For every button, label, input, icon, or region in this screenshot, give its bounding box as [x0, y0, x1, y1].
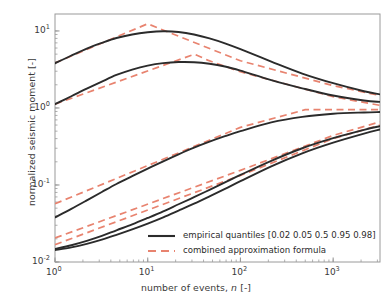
legend-swatch-dashed — [148, 246, 175, 256]
legend-item-approximation: combined approximation formula — [148, 243, 376, 258]
x-axis-label-text: number of events, — [141, 282, 228, 293]
plot-area — [0, 0, 392, 304]
legend-label-approximation: combined approximation formula — [183, 246, 326, 255]
curve-empirical-2 — [55, 112, 380, 217]
legend-item-empirical: empirical quantiles [0.02 0.05 0.5 0.95 … — [148, 228, 376, 243]
x-tick-label-0: 100 — [46, 267, 62, 277]
curve-approximation-2 — [55, 110, 380, 204]
chart-figure: normalized seismic moment [-] number of … — [0, 0, 392, 304]
data-curves — [55, 24, 380, 250]
y-tick-label-2: 10-1 — [22, 179, 50, 189]
legend-swatch-solid — [148, 231, 175, 241]
y-tick-label-0: 101 — [22, 25, 50, 35]
x-tick-label-1: 101 — [139, 267, 155, 277]
x-axis-label-variable: n — [231, 282, 237, 293]
x-tick-label-3: 103 — [324, 267, 340, 277]
y-tick-label-3: 10-2 — [22, 256, 50, 266]
x-tick-label-2: 102 — [231, 267, 247, 277]
y-tick-label-1: 100 — [22, 102, 50, 112]
legend-label-empirical: empirical quantiles [0.02 0.05 0.5 0.95 … — [183, 231, 376, 240]
x-axis-label: number of events, n [-] — [0, 282, 392, 293]
x-axis-label-unit: [-] — [240, 282, 251, 293]
y-axis-label-container: normalized seismic moment [-] — [20, 42, 36, 222]
curve-approximation-0 — [55, 24, 380, 96]
legend: empirical quantiles [0.02 0.05 0.5 0.95 … — [148, 228, 376, 258]
